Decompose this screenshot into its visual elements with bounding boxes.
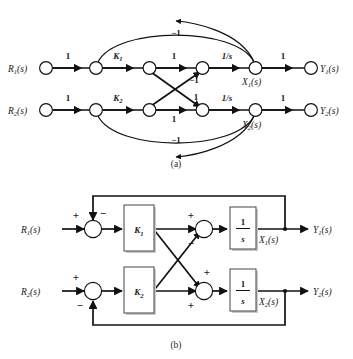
sfg-gain-feedback-top: −1 (171, 28, 181, 38)
caption-b: (b) (170, 340, 181, 351)
signal-flow-graph: R1(s) R2(s) Y1(s) Y2(s) X1(s) X2(s) (7, 21, 339, 170)
bd-int2-denominator: s (240, 296, 245, 306)
sfg-gain-k2out-sum4: 1 (172, 114, 177, 124)
bd-sum2-sign-left: + (188, 209, 194, 221)
bd-sum2-sign-diag: − (188, 237, 194, 249)
bd-label-y2: Y2(s) (313, 287, 332, 298)
bd-int1-numerator: 1 (241, 217, 246, 227)
sfg-gain-k1out-sum2: 1 (172, 51, 177, 61)
sfg-gain-k2: K2 (112, 93, 123, 104)
sfg-label-y2: Y2(s) (320, 106, 339, 117)
sfg-gain-feedback-bottom: −1 (171, 135, 181, 145)
bd-int2-numerator: 1 (241, 279, 246, 289)
sfg-label-r2: R2(s) (7, 106, 27, 117)
sfg-label-x1: X1(s) (241, 77, 261, 88)
bd-sum1 (84, 220, 101, 237)
sfg-gain-integrator-1: 1/s (222, 51, 233, 61)
sfg-gain-cross-down: 1 (194, 92, 199, 102)
sfg-label-y1: Y1(s) (320, 64, 339, 75)
bd-label-r2: R2(s) (20, 287, 40, 298)
bd-sum1-sign-top: − (100, 207, 106, 219)
sfg-gain-k1: K1 (112, 51, 122, 62)
bd-block-k2: K2 (124, 267, 156, 315)
sfg-node-sum1 (90, 62, 103, 75)
sfg-node-k2-out (143, 104, 156, 117)
bd-label-y1: Y1(s) (313, 225, 332, 236)
sfg-node-r2 (40, 104, 53, 117)
bd-sum3-sign-left: + (73, 271, 79, 283)
sfg-nodes (40, 62, 318, 117)
bd-sum3 (84, 282, 101, 299)
bd-block-k1: K1 (124, 205, 156, 253)
sfg-gain-r1-sum1: 1 (66, 51, 71, 61)
sfg-label-x2: X2(s) (241, 120, 261, 131)
sfg-node-sum3 (90, 104, 103, 117)
sfg-gain-r2-sum3: 1 (66, 93, 71, 103)
sfg-gain-integrator-2: 1/s (222, 93, 233, 103)
sfg-node-sum2 (196, 62, 209, 75)
bd-label-x2: X2(s) (258, 297, 278, 308)
bd-label-x1: X1(s) (258, 235, 278, 246)
bd-sum2 (195, 220, 212, 237)
bd-tap-y1 (283, 227, 287, 231)
sfg-gain-x2-y2: 1 (281, 93, 286, 103)
bd-block-integrator-2: 1 s (230, 269, 258, 313)
block-diagram: + − + − + − + + K1 K2 (20, 196, 332, 351)
sfg-node-k1-out (143, 62, 156, 75)
bd-sum4 (195, 282, 212, 299)
sfg-node-y2 (305, 104, 318, 117)
bd-sum4-sign-diag: + (204, 266, 210, 278)
sfg-node-r1 (40, 62, 53, 75)
bd-block-integrator-1: 1 s (230, 207, 258, 251)
sfg-node-sum4 (196, 104, 209, 117)
bd-sum4-sign-left: + (188, 299, 194, 311)
sfg-gain-x1-y1: 1 (281, 51, 286, 61)
sfg-node-x2 (249, 104, 262, 117)
sfg-node-y1 (305, 62, 318, 75)
figure-root: R1(s) R2(s) Y1(s) Y2(s) X1(s) X2(s) (0, 0, 353, 359)
sfg-gain-cross-up: −1 (189, 75, 199, 85)
caption-a: (a) (171, 159, 182, 170)
bd-int1-denominator: s (240, 234, 245, 244)
sfg-node-x1 (249, 62, 262, 75)
bd-tap-y2 (283, 289, 287, 293)
bd-sum3-sign-bottom: − (77, 299, 83, 311)
bd-label-r1: R1(s) (20, 225, 40, 236)
sfg-label-r1: R1(s) (7, 64, 27, 75)
bd-sum1-sign-left: + (73, 209, 79, 221)
